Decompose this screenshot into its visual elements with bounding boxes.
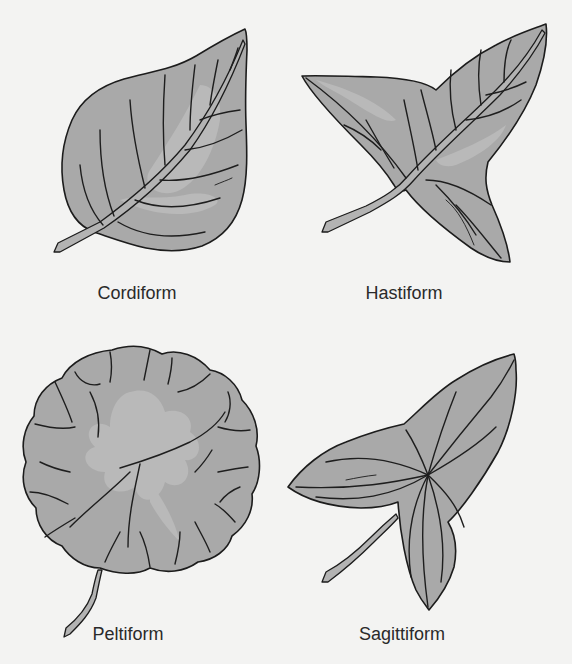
label-peltiform: Peltiform <box>92 624 163 645</box>
panel-sagittiform: Sagittiform <box>286 332 572 664</box>
leaf-shapes-figure: Cordiform Hastiform <box>0 0 572 664</box>
peltiform-leaf-illustration <box>0 332 286 664</box>
sagittiform-leaf-illustration <box>286 332 572 664</box>
label-hastiform: Hastiform <box>365 283 442 304</box>
label-sagittiform: Sagittiform <box>359 624 445 645</box>
panel-hastiform: Hastiform <box>286 0 572 332</box>
panel-cordiform: Cordiform <box>0 0 286 332</box>
panel-peltiform: Peltiform <box>0 332 286 664</box>
label-cordiform: Cordiform <box>97 283 176 304</box>
